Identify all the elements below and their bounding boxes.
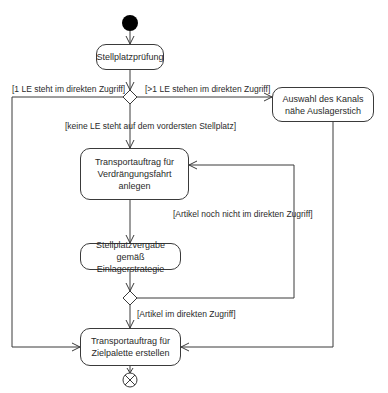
guard-no-le: [keine LE steht auf dem vordersten Stell… bbox=[65, 121, 236, 131]
guard-in-access: [Artikel im direkten Zugriff] bbox=[137, 309, 236, 319]
action-auswahl-kanal: Auswahl des Kanals nähe Auslagerstich bbox=[272, 87, 374, 122]
action-stellplatzvergabe: Stellplatzvergabe gemäß Einlagerstrategi… bbox=[80, 243, 181, 270]
decision-diamond-icon bbox=[123, 291, 137, 305]
guard-more-le: [>1 LE stehen im direkten Zugriff] bbox=[145, 84, 270, 94]
action-verdraengungsfahrt: Transportauftrag für Verdrängungsfahrt a… bbox=[80, 148, 189, 200]
guard-one-le: [1 LE steht im direkten Zugriff] bbox=[12, 84, 125, 94]
edge-one-le bbox=[12, 97, 123, 347]
initial-node-icon bbox=[122, 15, 138, 31]
diagram-edges bbox=[0, 0, 388, 393]
action-stellplatzpruefung: Stellplatzprüfung bbox=[96, 44, 164, 70]
activity-diagram: Stellplatzprüfung Auswahl des Kanals näh… bbox=[0, 0, 388, 393]
action-zielpalette: Transportauftrag für Zielpalette erstell… bbox=[80, 328, 181, 366]
guard-not-yet: [Artikel noch nicht im direkten Zugriff] bbox=[173, 209, 313, 219]
